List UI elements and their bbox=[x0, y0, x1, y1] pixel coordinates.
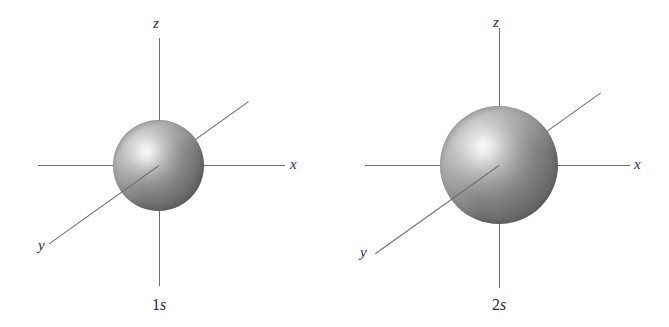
z-axis-label: z bbox=[493, 15, 499, 30]
orbital-panel-2s: z x y 2s bbox=[335, 0, 669, 327]
orbital-caption-n: 1 bbox=[152, 296, 160, 313]
orbital-caption-letter: s bbox=[500, 296, 506, 313]
orbital-caption-n: 2 bbox=[492, 296, 500, 313]
x-axis-label: x bbox=[634, 157, 641, 172]
z-axis-label: z bbox=[153, 16, 159, 31]
orbital-caption-letter: s bbox=[160, 296, 166, 313]
y-axis-label: y bbox=[360, 245, 367, 260]
orbital-caption-1s: 1s bbox=[129, 297, 189, 313]
orbital-diagram-figure: z x y 1s z x y 2s bbox=[0, 0, 669, 327]
orbital-panel-1s: z x y 1s bbox=[0, 0, 335, 327]
x-axis-label: x bbox=[290, 157, 297, 172]
orbital-caption-2s: 2s bbox=[469, 297, 529, 313]
y-axis-label: y bbox=[38, 238, 45, 253]
